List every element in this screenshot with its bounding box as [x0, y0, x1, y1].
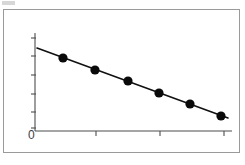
origin-label: 0: [28, 129, 35, 141]
data-point-marker: [185, 99, 194, 108]
line-chart-plot: [0, 0, 245, 165]
data-point-marker: [58, 53, 67, 62]
chart-figure: 0: [0, 0, 245, 165]
data-point-marker: [123, 76, 132, 85]
x-axis-group: [35, 131, 232, 136]
data-point-marker: [154, 88, 163, 97]
data-point-marker: [90, 65, 99, 74]
y-axis-group: [31, 33, 36, 131]
data-point-marker: [216, 111, 225, 120]
